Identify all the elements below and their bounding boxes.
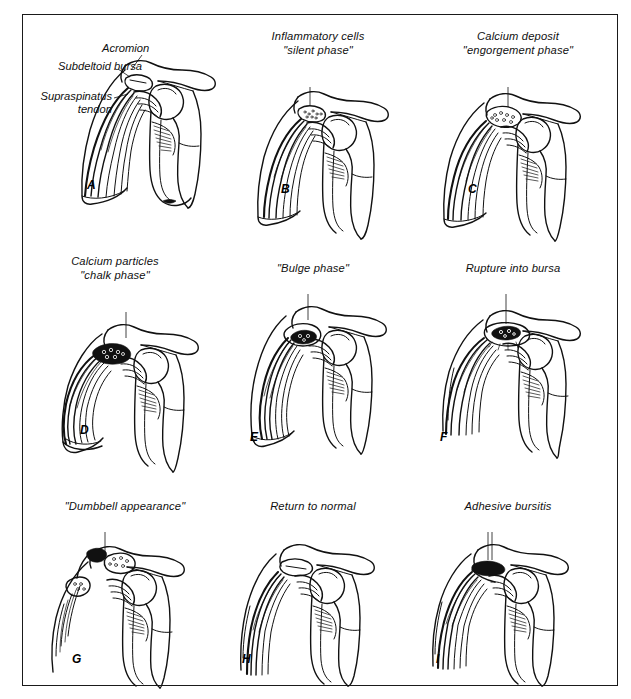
shoulder-illustration-i: [428, 514, 613, 689]
panel-letter-h: H: [242, 652, 251, 666]
panel-b-caption-line2: "silent phase": [238, 44, 398, 58]
panel-e-caption-line1: "Bulge phase": [238, 262, 388, 276]
panel-a: Acromion Subdeltoid bursa Supraspinatus …: [30, 30, 220, 215]
panel-g: "Dumbbell appearance": [30, 500, 220, 675]
label-subdeltoid-bursa: Subdeltoid bursa: [24, 60, 142, 74]
panel-letter-a: A: [87, 178, 96, 192]
shoulder-illustration-d: [30, 282, 220, 482]
shoulder-illustration-c: [428, 57, 613, 242]
label-supraspinatus-tendon-line1: Supraspinatus: [6, 90, 112, 104]
panel-e: "Bulge phase": [238, 262, 423, 452]
panel-letter-d: D: [80, 423, 89, 437]
panel-letter-c: C: [468, 182, 477, 196]
shoulder-illustration-g: [30, 514, 220, 689]
panel-letter-f: F: [440, 430, 447, 444]
label-supraspinatus-tendon-line2: tendon: [6, 103, 112, 117]
panel-b: Inflammatory cells "silent phase": [238, 30, 423, 215]
panel-i-caption-line1: Adhesive bursitis: [428, 500, 588, 514]
panel-letter-b: B: [281, 182, 290, 196]
shoulder-illustration-a: [30, 30, 220, 215]
panel-b-caption-line1: Inflammatory cells: [238, 30, 398, 44]
panel-c: Calcium deposit "engorgement phase": [428, 30, 613, 215]
calcium-deposit-d: [93, 344, 131, 365]
panel-d-caption-line2: "chalk phase": [30, 269, 200, 283]
shoulder-illustration-h: [238, 514, 423, 689]
shoulder-illustration-b: [238, 57, 423, 242]
inflammatory-cells: [304, 110, 322, 119]
panel-c-caption-line2: "engorgement phase": [428, 44, 608, 58]
panel-g-caption-line1: "Dumbbell appearance": [30, 500, 220, 514]
shoulder-illustration-f: [428, 276, 613, 466]
dumbbell-lobe-superior: [87, 548, 107, 562]
panel-f: Rupture into bursa: [428, 262, 613, 452]
panel-c-caption-line1: Calcium deposit: [428, 30, 608, 44]
panel-letter-i: I: [436, 652, 439, 666]
panel-letter-e: E: [250, 430, 258, 444]
panel-d: Calcium particles "chalk phase": [30, 255, 220, 455]
panel-i: Adhesive bursitis: [428, 500, 613, 675]
shoulder-illustration-e: [238, 276, 423, 466]
panel-letter-g: G: [72, 652, 81, 666]
panel-h-caption-line1: Return to normal: [238, 500, 388, 514]
panel-h: Return to normal: [238, 500, 423, 675]
panel-f-caption-line1: Rupture into bursa: [428, 262, 598, 276]
panel-grid: Acromion Subdeltoid bursa Supraspinatus …: [0, 0, 631, 699]
label-acromion: Acromion: [102, 42, 149, 56]
panel-d-caption-line1: Calcium particles: [30, 255, 200, 269]
